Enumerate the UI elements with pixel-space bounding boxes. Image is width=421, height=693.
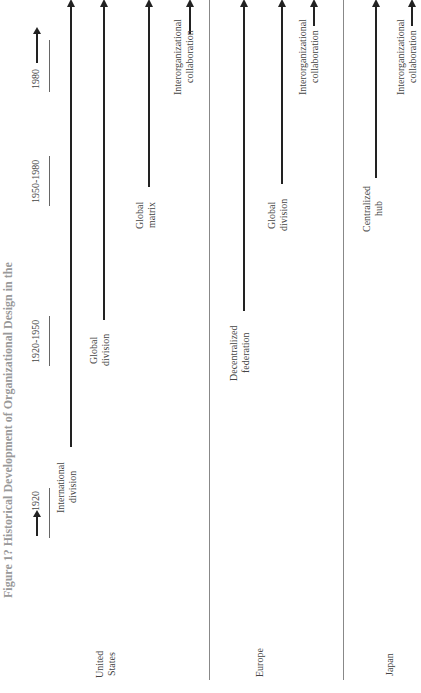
design-label: Global matrix (134, 193, 157, 237)
arrow-up-icon (148, 6, 150, 187)
arrow-up-icon (375, 6, 377, 178)
period-1950-1980: 1950-1980 (30, 156, 42, 206)
design-label: Interorganizational collaboration (395, 12, 418, 102)
design-label: Global division (266, 192, 289, 238)
region-label: Europe (254, 645, 266, 681)
arrow-up-icon (70, 6, 72, 447)
figure-title: Figure 1? Historical Development of Orga… (2, 170, 16, 690)
design-label: International division (55, 452, 78, 522)
design-label: Centralized hub (361, 184, 384, 234)
period-1980: 1980 (30, 66, 42, 92)
arrow-up-icon (36, 516, 38, 536)
period-underline (49, 156, 50, 206)
design-label: Global division (88, 325, 111, 375)
region-divider (209, 0, 210, 680)
arrow-up-icon (103, 6, 105, 320)
period-1920: 1920 (30, 488, 42, 514)
period-underline (49, 40, 50, 92)
region-divider (343, 0, 344, 680)
arrow-up-icon (36, 33, 38, 63)
period-1920-1950: 1920-1950 (30, 316, 42, 366)
arrow-up-icon (281, 6, 283, 184)
design-label: Interorganizational collaboration (297, 12, 320, 102)
region-label: Japan (384, 650, 396, 680)
period-underline (49, 316, 50, 366)
region-label: United States (94, 644, 117, 684)
arrow-up-icon (243, 6, 245, 311)
design-label: Interorganizational collaboration (172, 12, 195, 102)
design-label: Decentralized federation (228, 318, 251, 388)
period-underline (49, 488, 50, 538)
